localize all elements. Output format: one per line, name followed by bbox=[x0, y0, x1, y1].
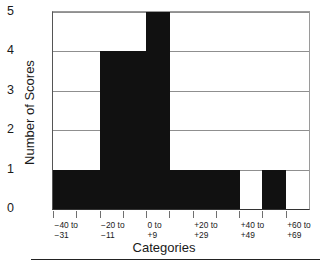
y-axis-tick-label: 4 bbox=[0, 44, 14, 57]
y-axis-tick-label: 1 bbox=[0, 163, 14, 176]
gridline bbox=[53, 12, 309, 13]
plot-inner bbox=[53, 12, 309, 209]
histogram-bar bbox=[193, 170, 217, 209]
gridline bbox=[53, 130, 309, 131]
x-axis-tick bbox=[216, 211, 217, 218]
histogram-bar bbox=[146, 12, 170, 209]
x-axis-tick bbox=[76, 211, 77, 218]
y-axis-tick-label: 2 bbox=[0, 123, 14, 136]
x-axis-tick bbox=[193, 211, 194, 218]
histogram-bar bbox=[53, 170, 77, 209]
x-axis-tick-label: +60 to +69 bbox=[287, 221, 311, 240]
x-axis-tick bbox=[239, 211, 240, 218]
histogram-bar bbox=[216, 170, 240, 209]
y-axis-tick-label: 0 bbox=[0, 202, 14, 215]
histogram-bar bbox=[76, 170, 100, 209]
x-axis-tick bbox=[53, 211, 54, 218]
x-axis-tick bbox=[286, 211, 287, 218]
histogram-bar bbox=[100, 51, 124, 209]
x-axis-title: Categories bbox=[0, 240, 328, 255]
y-axis-title: Number of Scores bbox=[22, 28, 37, 198]
y-axis-tick-label: 5 bbox=[0, 5, 14, 18]
y-axis-tick-label: 3 bbox=[0, 84, 14, 97]
x-axis-tick-label: +40 to +49 bbox=[241, 221, 265, 240]
x-axis-tick-label: −40 to −31 bbox=[55, 221, 79, 240]
x-axis-tick bbox=[169, 211, 170, 218]
x-axis-tick-label: −20 to −11 bbox=[101, 221, 125, 240]
x-axis-tick bbox=[262, 211, 263, 218]
gridline bbox=[53, 91, 309, 92]
x-axis-tick-label: 0 to +9 bbox=[148, 221, 162, 240]
x-axis-tick bbox=[146, 211, 147, 218]
histogram-figure: Number of Scores 012345 −40 to −31−20 to… bbox=[0, 0, 328, 267]
histogram-bar bbox=[123, 51, 147, 209]
histogram-bar bbox=[262, 170, 286, 209]
x-axis-tick bbox=[123, 211, 124, 218]
plot-area bbox=[52, 11, 310, 210]
x-axis-tick-label: +20 to +29 bbox=[194, 221, 218, 240]
gridline bbox=[53, 51, 309, 52]
bottom-rule bbox=[31, 259, 320, 260]
histogram-bar bbox=[169, 170, 193, 209]
x-axis-tick bbox=[100, 211, 101, 218]
